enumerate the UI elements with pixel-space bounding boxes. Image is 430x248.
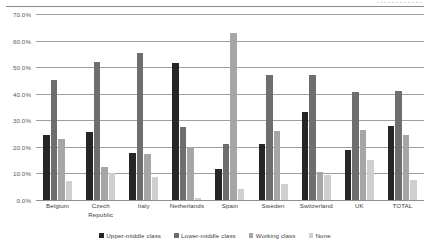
bar xyxy=(152,177,159,200)
bar xyxy=(172,63,179,200)
bar xyxy=(324,175,331,200)
legend-label: Lower-middle class xyxy=(181,232,236,239)
bar-groups xyxy=(36,14,424,200)
bar-group xyxy=(165,14,208,200)
bar xyxy=(223,144,230,200)
bar xyxy=(144,154,151,201)
plot-wrapper: 0.0%10.0%20.0%30.0%40.0%50.0%60.0%70.0% xyxy=(0,14,430,200)
bar xyxy=(367,160,374,200)
bar xyxy=(137,53,144,200)
bar xyxy=(395,91,402,200)
y-tick-label: 20.0% xyxy=(13,143,31,150)
bar xyxy=(195,198,202,200)
y-tick-label: 30.0% xyxy=(13,117,31,124)
bar xyxy=(187,147,194,200)
legend-item[interactable]: Lower-middle class xyxy=(174,232,236,239)
legend-item[interactable]: None xyxy=(309,232,331,239)
bar xyxy=(266,75,273,200)
bar-group xyxy=(252,14,295,200)
axis-baseline xyxy=(36,200,424,201)
bar xyxy=(94,62,101,200)
x-tick-label: UK xyxy=(338,202,381,226)
x-tick-label: TOTAL xyxy=(381,202,424,226)
bar-group xyxy=(295,14,338,200)
bar xyxy=(51,80,58,200)
bar xyxy=(281,184,288,200)
bar xyxy=(109,173,116,200)
bar-group xyxy=(338,14,381,200)
x-tick-label: Switzerland xyxy=(295,202,338,226)
legend-swatch-icon xyxy=(249,233,254,238)
bar-group xyxy=(36,14,79,200)
bar xyxy=(43,135,50,200)
x-axis: BelgiumCzech RepublicItalyNetherlandsSpa… xyxy=(36,202,424,226)
y-tick-label: 50.0% xyxy=(13,64,31,71)
legend-label: Working class xyxy=(256,232,296,239)
x-tick-label: Czech Republic xyxy=(79,202,122,226)
x-tick-label: Netherlands xyxy=(165,202,208,226)
x-tick-label: Spain xyxy=(208,202,251,226)
bar xyxy=(352,92,359,200)
bar xyxy=(259,144,266,200)
bar xyxy=(129,153,136,200)
bar xyxy=(360,130,367,200)
top-faint-text: • • • • • • • • • • • • xyxy=(377,0,423,4)
legend-swatch-icon xyxy=(309,233,314,238)
bar xyxy=(403,135,410,200)
bar xyxy=(238,189,245,200)
bar xyxy=(58,139,65,200)
bar xyxy=(317,172,324,200)
bar xyxy=(66,181,73,200)
legend-label: Upper-middle class xyxy=(106,232,161,239)
bar xyxy=(309,75,316,200)
bar xyxy=(101,167,108,200)
bar-group xyxy=(208,14,251,200)
bar xyxy=(215,169,222,200)
legend-item[interactable]: Working class xyxy=(249,232,296,239)
y-axis: 0.0%10.0%20.0%30.0%40.0%50.0%60.0%70.0% xyxy=(0,14,34,200)
chart-container: • • • • • • • • • • • • 0.0%10.0%20.0%30… xyxy=(0,0,430,248)
bar-group xyxy=(79,14,122,200)
x-tick-label: Italy xyxy=(122,202,165,226)
bar xyxy=(345,150,352,200)
plot-area xyxy=(36,14,424,200)
y-tick-label: 0.0% xyxy=(16,197,31,204)
x-tick-label: Sweden xyxy=(252,202,295,226)
bar-group xyxy=(122,14,165,200)
legend-item[interactable]: Upper-middle class xyxy=(99,232,161,239)
top-horizontal-rule xyxy=(6,6,424,7)
legend-swatch-icon xyxy=(99,233,104,238)
bar xyxy=(230,33,237,200)
y-tick-label: 60.0% xyxy=(13,37,31,44)
chart-legend: Upper-middle classLower-middle classWork… xyxy=(0,232,430,239)
bar xyxy=(388,126,395,200)
bar xyxy=(274,131,281,200)
y-tick-label: 10.0% xyxy=(13,170,31,177)
bar xyxy=(180,127,187,200)
bar xyxy=(86,132,93,200)
bar xyxy=(302,112,309,200)
x-tick-label: Belgium xyxy=(36,202,79,226)
page-top-artifact: • • • • • • • • • • • • xyxy=(6,0,424,9)
bar xyxy=(410,180,417,200)
legend-label: None xyxy=(316,232,331,239)
legend-swatch-icon xyxy=(174,233,179,238)
y-tick-label: 70.0% xyxy=(13,11,31,18)
y-tick-label: 40.0% xyxy=(13,90,31,97)
bar-group xyxy=(381,14,424,200)
